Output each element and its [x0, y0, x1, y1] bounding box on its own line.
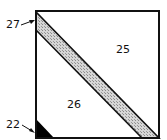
label-27: 27 — [6, 19, 20, 30]
label-25: 25 — [116, 44, 130, 55]
arrowhead-22 — [29, 128, 35, 133]
corner-triangle-22 — [36, 119, 54, 138]
diagram-canvas — [0, 0, 167, 140]
hatched-band-27 — [36, 12, 159, 138]
label-26: 26 — [67, 99, 81, 110]
label-22: 22 — [6, 119, 20, 130]
